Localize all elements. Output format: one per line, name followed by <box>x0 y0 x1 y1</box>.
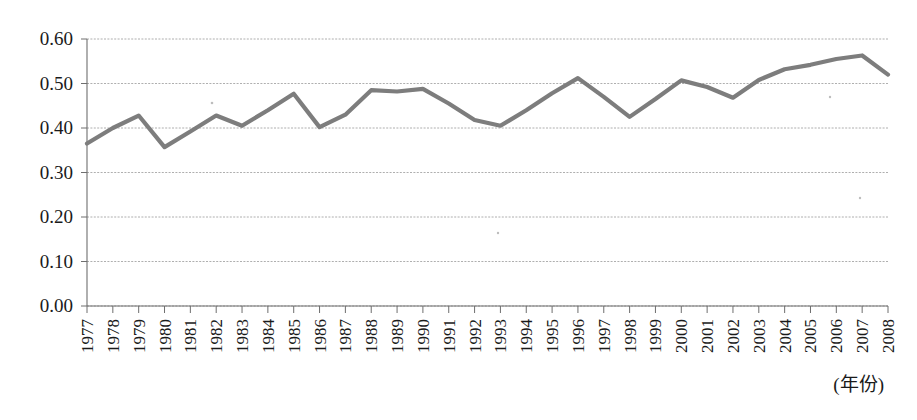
x-tick-label-1997: 1997 <box>595 319 614 354</box>
data-series-line <box>87 55 888 147</box>
x-tick-label-1989: 1989 <box>388 319 407 353</box>
chart-canvas: 0.000.100.200.300.400.500.60 19771978197… <box>0 0 917 420</box>
y-tick-label-0.20: 0.20 <box>40 206 73 227</box>
x-tick-label-1982: 1982 <box>207 319 226 353</box>
x-axis-tick-labels: 1977197819791980198119821983198419851986… <box>78 319 898 354</box>
x-tick-label-1985: 1985 <box>285 319 304 353</box>
x-tick-label-1996: 1996 <box>569 319 588 353</box>
gridlines-group <box>87 39 888 306</box>
x-tick-label-1977: 1977 <box>78 319 97 354</box>
x-tick-label-1978: 1978 <box>104 319 123 353</box>
x-tick-label-2008: 2008 <box>879 319 898 353</box>
x-tick-label-1998: 1998 <box>621 319 640 353</box>
scan-speck <box>211 102 214 105</box>
x-tick-label-1987: 1987 <box>336 319 355 354</box>
x-tick-label-1993: 1993 <box>491 319 510 353</box>
x-tick-label-1986: 1986 <box>311 319 330 353</box>
x-tick-label-2006: 2006 <box>827 319 846 353</box>
y-tick-label-0.60: 0.60 <box>40 28 73 49</box>
x-tick-label-1999: 1999 <box>646 319 665 353</box>
line-chart: 0.000.100.200.300.400.500.60 19771978197… <box>0 0 917 420</box>
x-tick-label-1983: 1983 <box>233 319 252 353</box>
y-tick-label-0.00: 0.00 <box>40 295 73 316</box>
y-tick-label-0.30: 0.30 <box>40 162 73 183</box>
x-tick-label-1994: 1994 <box>517 319 536 354</box>
x-tick-label-2000: 2000 <box>672 319 691 353</box>
x-tick-label-1992: 1992 <box>466 319 485 353</box>
x-axis-caption: (年份) <box>833 374 884 396</box>
x-tick-label-2003: 2003 <box>750 319 769 353</box>
scan-speck <box>497 232 499 234</box>
x-tick-label-1980: 1980 <box>156 319 175 353</box>
y-axis-tick-labels: 0.000.100.200.300.400.500.60 <box>40 28 73 316</box>
scan-speck <box>829 96 831 98</box>
x-tick-label-1981: 1981 <box>181 319 200 353</box>
x-tick-label-2004: 2004 <box>776 319 795 354</box>
x-tickmarks-group <box>81 39 888 313</box>
y-tick-label-0.50: 0.50 <box>40 73 73 94</box>
x-tick-label-2002: 2002 <box>724 319 743 353</box>
x-tick-label-1990: 1990 <box>414 319 433 353</box>
x-tick-label-2007: 2007 <box>853 319 872 354</box>
x-tick-label-1991: 1991 <box>440 319 459 353</box>
x-tick-label-1988: 1988 <box>362 319 381 353</box>
x-tick-label-1979: 1979 <box>130 319 149 353</box>
x-tick-label-1995: 1995 <box>543 319 562 353</box>
scan-speck <box>859 197 861 199</box>
x-tick-label-2001: 2001 <box>698 319 717 353</box>
y-tick-label-0.40: 0.40 <box>40 117 73 138</box>
y-tick-label-0.10: 0.10 <box>40 251 73 272</box>
x-tick-label-2005: 2005 <box>801 319 820 353</box>
x-tick-label-1984: 1984 <box>259 319 278 354</box>
